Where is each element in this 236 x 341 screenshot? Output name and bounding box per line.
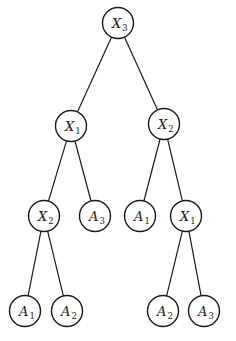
node-variable: X — [111, 16, 122, 31]
node-subscript: 3 — [122, 23, 127, 33]
leaf-node: A3 — [80, 201, 111, 232]
decision-node: X2 — [149, 109, 180, 140]
tree-edge — [167, 231, 183, 296]
node-variable: A — [18, 304, 28, 319]
tree-nodes: X3X1X2X2A3A1X1A1A2A2A3 — [10, 8, 220, 327]
leaf-node: A1 — [10, 296, 41, 327]
tree-edge — [144, 139, 160, 201]
node-subscript: 1 — [144, 216, 149, 226]
tree-edges — [28, 37, 201, 296]
tree-edge — [48, 231, 64, 296]
leaf-node: A2 — [148, 296, 179, 327]
tree-edge — [48, 141, 66, 201]
tree-edge — [189, 231, 201, 296]
node-subscript: 1 — [29, 311, 34, 321]
decision-node: X1 — [56, 111, 87, 142]
node-variable: A — [133, 209, 143, 224]
node-subscript: 2 — [48, 216, 53, 226]
node-subscript: 1 — [190, 216, 195, 226]
leaf-node: A3 — [189, 296, 220, 327]
node-subscript: 3 — [208, 311, 213, 321]
tree-edge — [168, 139, 183, 201]
node-variable: X — [64, 119, 75, 134]
decision-node: X2 — [29, 201, 60, 232]
tree-edge — [124, 37, 157, 110]
node-variable: X — [37, 209, 48, 224]
node-variable: A — [156, 304, 166, 319]
node-variable: A — [60, 304, 70, 319]
node-subscript: 2 — [71, 311, 76, 321]
leaf-node: A2 — [52, 296, 83, 327]
node-subscript: 1 — [75, 126, 80, 136]
node-subscript: 2 — [167, 311, 172, 321]
node-subscript: 2 — [168, 124, 173, 134]
node-variable: X — [157, 117, 168, 132]
tree-edge — [75, 141, 91, 201]
decision-tree-diagram: X3X1X2X2A3A1X1A1A2A2A3 — [0, 0, 236, 341]
node-subscript: 3 — [99, 216, 104, 226]
decision-node: X1 — [171, 201, 202, 232]
tree-edge — [77, 37, 111, 112]
node-variable: X — [179, 209, 190, 224]
leaf-node: A1 — [125, 201, 156, 232]
decision-node: X3 — [103, 8, 134, 39]
node-variable: A — [197, 304, 207, 319]
tree-edge — [28, 231, 41, 296]
node-variable: A — [88, 209, 98, 224]
